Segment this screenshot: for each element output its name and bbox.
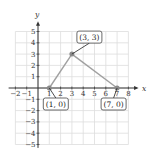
x-arrow-icon [134,86,139,90]
y-tick-label: −2 [25,107,35,115]
x-tick-label: 4 [81,90,86,98]
x-tick-label: 3 [70,90,74,98]
x-tick-label: 2 [58,90,62,98]
x-tick-label: 8 [126,90,130,98]
x-tick-label: −2 [10,90,20,98]
x-tick-label: 1 [47,90,51,98]
y-tick-label: 5 [31,28,35,36]
point-label: (3, 3) [79,33,99,42]
y-tick-label: 1 [31,73,35,81]
coordinate-plot: −2−112345678−5−4−3−2−112345 (1, 0)(3, 3)… [0,0,154,158]
y-tick-label: −5 [25,141,35,149]
x-tick-label: 5 [92,90,96,98]
point-label: (1, 0) [46,100,66,109]
y-axis-label: y [34,10,40,19]
y-tick-label: −1 [25,96,35,104]
y-tick-label: −3 [25,118,35,126]
y-tick-label: 2 [31,62,35,70]
point-label: (7, 0) [104,100,124,109]
x-tick-label: 6 [104,90,109,98]
x-tick-label: 7 [115,90,119,98]
y-tick-label: 3 [31,51,35,59]
y-arrow-icon [36,21,40,26]
y-tick-label: 4 [31,39,36,47]
y-tick-label: −4 [25,130,36,138]
x-axis-label: x [142,84,147,93]
